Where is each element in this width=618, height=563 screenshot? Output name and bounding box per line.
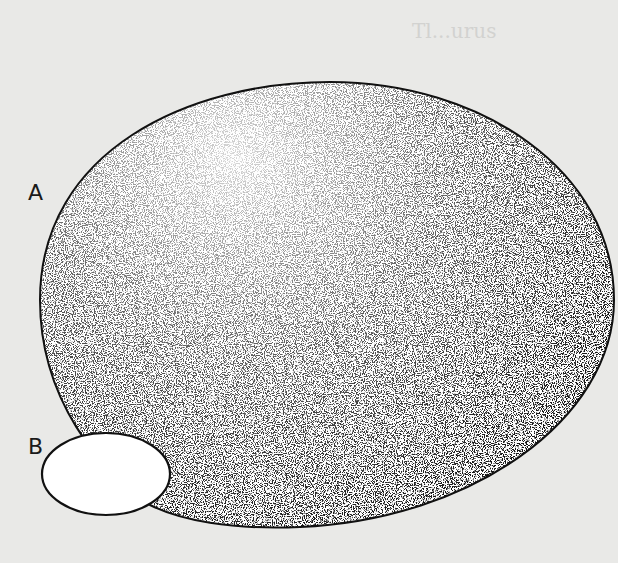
diagram-figure: Tl...urus A B bbox=[0, 0, 618, 563]
ellipse-diagram: Tl...urus bbox=[0, 0, 618, 563]
label-b: B bbox=[28, 436, 43, 458]
bleed-through-heading: Tl...urus bbox=[412, 19, 496, 43]
ellipse-b bbox=[42, 433, 170, 515]
label-a: A bbox=[28, 182, 43, 204]
